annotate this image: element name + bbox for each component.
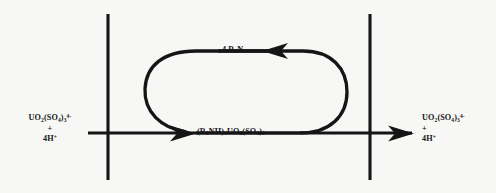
product-right-group: UO2(SO4)34- + 4H+ xyxy=(422,113,494,145)
center-amine-complex-label: (R3NH)4UO2(SO4)3 xyxy=(197,127,265,138)
reactant-left-plus: + xyxy=(12,124,88,134)
top-amine-reagent-label: 4 R3N xyxy=(222,45,243,56)
reactant-left-species: UO2(SO4)34- xyxy=(12,113,88,124)
product-right-species: UO2(SO4)34- xyxy=(422,113,494,124)
phase-boundary-lines xyxy=(108,14,370,180)
scheme-vector-layer xyxy=(0,0,496,193)
reactant-left-group: UO2(SO4)34- + 4H+ xyxy=(12,113,88,145)
left-recycle-curve xyxy=(145,51,280,132)
product-right-coreactant: 4H+ xyxy=(422,134,494,145)
product-right-plus: + xyxy=(422,124,494,134)
right-recycle-curve xyxy=(196,51,347,133)
reaction-scheme-diagram: UO2(SO4)34- + 4H+ (R3NH)4UO2(SO4)3 4 R3N… xyxy=(0,0,496,193)
reactant-left-coreactant: 4H+ xyxy=(12,134,88,145)
